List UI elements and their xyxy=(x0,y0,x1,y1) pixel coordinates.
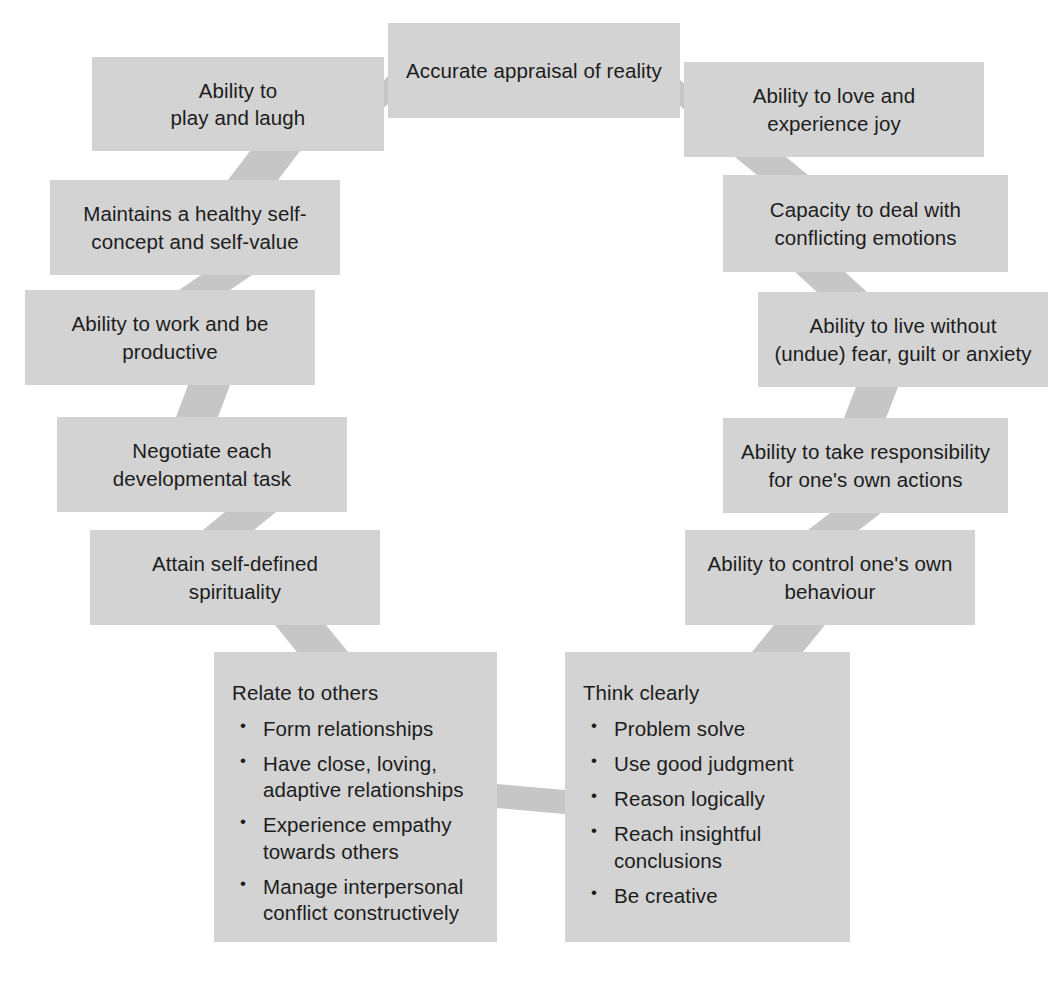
node-label: Ability to love and experience joy xyxy=(745,82,924,136)
list-title: Relate to others xyxy=(232,680,483,707)
list-item: Problem solve xyxy=(583,716,836,742)
connector-self-concept-to-work xyxy=(179,275,252,290)
list-items: Problem solveUse good judgmentReason log… xyxy=(583,716,836,909)
connector-relate-to-think xyxy=(497,784,565,814)
node-label: Ability to work and be productive xyxy=(63,310,276,364)
connector-developmental-to-spirit xyxy=(203,512,276,530)
node-play-and-laugh: Ability to play and laugh xyxy=(92,57,384,151)
node-label: Attain self-defined spirituality xyxy=(144,550,326,604)
list-item: Reason logically xyxy=(583,786,836,812)
node-healthy-self-concept: Maintains a healthy self- concept and se… xyxy=(50,180,340,275)
node-developmental-task: Negotiate each developmental task xyxy=(57,417,347,512)
connector-live-to-responsibility xyxy=(844,387,898,418)
node-work-and-productive: Ability to work and be productive xyxy=(25,290,315,385)
node-relate-to-others: Relate to othersForm relationshipsHave c… xyxy=(214,652,497,942)
node-take-responsibility: Ability to take responsibility for one's… xyxy=(723,418,1008,513)
node-label: Accurate appraisal of reality xyxy=(398,57,670,84)
list-items: Form relationshipsHave close, loving, ad… xyxy=(232,716,483,927)
diagram-canvas: Accurate appraisal of realityAbility to … xyxy=(0,0,1054,982)
list-item: Manage interpersonal conflict constructi… xyxy=(232,874,483,926)
list-item: Form relationships xyxy=(232,716,483,742)
node-label: Ability to live without (undue) fear, gu… xyxy=(766,312,1039,366)
node-love-and-joy: Ability to love and experience joy xyxy=(684,62,984,157)
connector-spirit-to-relate xyxy=(275,625,348,652)
list-title: Think clearly xyxy=(583,680,836,707)
connector-responsibility-to-control xyxy=(808,513,881,530)
node-accurate-appraisal: Accurate appraisal of reality xyxy=(388,23,680,118)
connector-play-to-self-concept xyxy=(228,151,300,180)
connector-work-to-developmental xyxy=(176,385,230,417)
list-item: Be creative xyxy=(583,883,836,909)
node-label: Ability to play and laugh xyxy=(163,77,314,131)
node-conflicting-emotions: Capacity to deal with conflicting emotio… xyxy=(723,175,1008,272)
node-label: Maintains a healthy self- concept and se… xyxy=(75,200,315,254)
connector-love-to-emotions xyxy=(735,157,808,175)
node-label: Ability to control one's own behaviour xyxy=(700,550,961,604)
node-control-own-behaviour: Ability to control one's own behaviour xyxy=(685,530,975,625)
list-item: Use good judgment xyxy=(583,751,836,777)
node-self-defined-spirituality: Attain self-defined spirituality xyxy=(90,530,380,625)
connector-emotions-to-live-without xyxy=(795,272,867,292)
node-label: Capacity to deal with conflicting emotio… xyxy=(762,196,969,250)
list-item: Experience empathy towards others xyxy=(232,812,483,864)
node-label: Negotiate each developmental task xyxy=(105,437,299,491)
list-item: Reach insightful conclusions xyxy=(583,821,836,873)
node-think-clearly: Think clearlyProblem solveUse good judgm… xyxy=(565,652,850,942)
node-label: Ability to take responsibility for one's… xyxy=(733,438,998,492)
list-item: Have close, loving, adaptive relationshi… xyxy=(232,751,483,803)
connector-control-to-think xyxy=(752,625,825,652)
node-live-without-fear: Ability to live without (undue) fear, gu… xyxy=(758,292,1048,387)
